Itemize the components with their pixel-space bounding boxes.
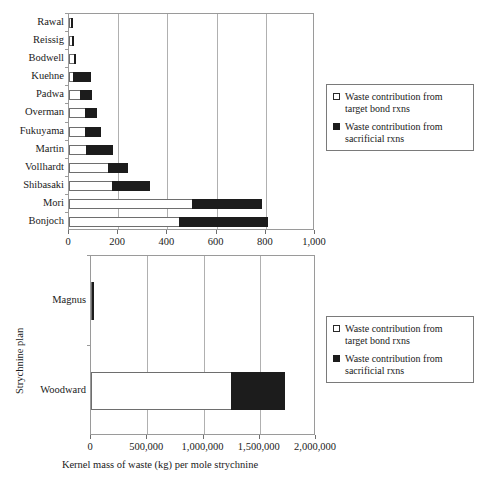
x-tick-label: 500,000 xyxy=(129,441,163,452)
x-tick-label: 1,000,000 xyxy=(182,441,224,452)
x-tick-label: 400 xyxy=(159,236,175,247)
legend-label-sacrificial-bottom: Waste contribution from sacrificial rxns xyxy=(345,353,443,376)
bar-segment-target-bond xyxy=(69,199,193,209)
x-tick-label: 1,500,000 xyxy=(238,441,280,452)
bar-bodwell xyxy=(69,54,76,64)
legend-item-sacrificial-bottom: Waste contribution from sacrificial rxns xyxy=(333,353,466,376)
bar-segment-target-bond xyxy=(69,163,109,173)
y-tick-mark xyxy=(65,31,68,32)
y-tick-label-reissig: Reissig xyxy=(0,34,64,45)
bar-segment-sacrificial xyxy=(192,199,262,209)
bar-segment-sacrificial xyxy=(85,108,97,118)
bar-segment-sacrificial xyxy=(112,181,150,191)
bar-magnus xyxy=(91,282,94,320)
gridline xyxy=(217,14,218,229)
bar-segment-sacrificial xyxy=(231,372,285,410)
bar-segment-target-bond xyxy=(69,145,87,155)
bar-martin xyxy=(69,145,113,155)
bar-segment-sacrificial xyxy=(72,36,74,46)
legend-label-sacrificial: Waste contribution from sacrificial rxns xyxy=(345,121,443,144)
y-tick-mark xyxy=(65,13,68,14)
bar-segment-target-bond xyxy=(69,181,113,191)
y-tick-label-bodwell: Bodwell xyxy=(0,52,64,63)
y-tick-mark xyxy=(65,85,68,86)
bar-kuehne xyxy=(69,72,91,82)
filled-square-swatch-icon xyxy=(333,123,340,130)
y-tick-mark xyxy=(65,49,68,50)
bar-bonjoch xyxy=(69,217,268,227)
x-tick-mark xyxy=(314,230,315,234)
y-tick-mark xyxy=(65,103,68,104)
y-tick-label-martin: Martin xyxy=(0,143,64,154)
x-tick-label: 1,000 xyxy=(302,236,326,247)
bar-segment-target-bond xyxy=(69,217,180,227)
y-tick-mark xyxy=(65,158,68,159)
bar-segment-sacrificial xyxy=(86,145,113,155)
bar-segment-target-bond xyxy=(69,108,86,118)
gridline xyxy=(167,14,168,229)
legend-item-target-bond: Waste contribution from target bond rxns xyxy=(333,91,466,114)
top-chart-panel: RawalReissigBodwellKuehnePadwaOvermanFuk… xyxy=(0,0,320,250)
x-tick-label: 0 xyxy=(87,441,92,452)
bar-segment-sacrificial xyxy=(74,54,76,64)
bar-overman xyxy=(69,108,97,118)
y-tick-mark xyxy=(65,212,68,213)
y-tick-mark xyxy=(65,122,68,123)
x-tick-label: 2,000,000 xyxy=(294,441,336,452)
y-tick-label-shibasaki: Shibasaki xyxy=(0,179,64,190)
x-tick-mark xyxy=(117,230,118,234)
open-square-swatch-icon xyxy=(333,325,340,332)
x-tick-mark xyxy=(315,435,316,439)
x-tick-label: 600 xyxy=(208,236,224,247)
bar-segment-sacrificial xyxy=(85,127,101,137)
filled-square-swatch-icon xyxy=(333,355,340,362)
top-chart-plot-area xyxy=(68,13,314,230)
bar-segment-sacrificial xyxy=(179,217,269,227)
legend-item-sacrificial: Waste contribution from sacrificial rxns xyxy=(333,121,466,144)
bar-vollhardt xyxy=(69,163,128,173)
y-tick-label-magnus: Magnus xyxy=(0,294,86,305)
bar-fukuyama xyxy=(69,127,101,137)
open-square-swatch-icon xyxy=(333,93,340,100)
x-tick-mark xyxy=(146,435,147,439)
y-tick-label-rawal: Rawal xyxy=(0,16,64,27)
y-tick-mark xyxy=(87,345,90,346)
x-tick-label: 200 xyxy=(109,236,125,247)
y-tick-label-vollhardt: Vollhardt xyxy=(0,161,64,172)
y-tick-mark xyxy=(65,140,68,141)
x-tick-mark xyxy=(216,230,217,234)
bar-padwa xyxy=(69,90,92,100)
y-tick-mark xyxy=(65,176,68,177)
x-tick-mark xyxy=(259,435,260,439)
bar-shibasaki xyxy=(69,181,150,191)
gridline xyxy=(118,14,119,229)
x-tick-mark xyxy=(203,435,204,439)
bar-rawal xyxy=(69,18,73,28)
bar-segment-sacrificial xyxy=(92,282,94,320)
bar-woodward xyxy=(91,372,285,410)
y-tick-label-woodward: Woodward xyxy=(0,384,86,395)
x-tick-mark xyxy=(265,230,266,234)
x-tick-label: 0 xyxy=(65,236,70,247)
bottom-chart-plot-area xyxy=(90,255,315,435)
x-tick-label: 800 xyxy=(257,236,273,247)
bottom-chart-legend: Waste contribution from target bond rxns… xyxy=(326,316,474,383)
bar-segment-target-bond xyxy=(69,127,86,137)
y-tick-mark xyxy=(65,67,68,68)
top-chart-legend: Waste contribution from target bond rxns… xyxy=(326,84,474,151)
y-tick-label-fukuyama: Fukuyama xyxy=(0,125,64,136)
strychnine-waste-figure: RawalReissigBodwellKuehnePadwaOvermanFuk… xyxy=(0,0,480,482)
x-tick-mark xyxy=(166,230,167,234)
legend-label-target-bond: Waste contribution from target bond rxns xyxy=(345,91,443,114)
y-tick-label-padwa: Padwa xyxy=(0,88,64,99)
y-tick-mark xyxy=(87,255,90,256)
legend-item-target-bond-bottom: Waste contribution from target bond rxns xyxy=(333,323,466,346)
y-tick-mark xyxy=(65,194,68,195)
bar-segment-sacrificial xyxy=(80,90,92,100)
bar-segment-target-bond xyxy=(91,372,232,410)
bottom-chart-x-axis-title: Kernel mass of waste (kg) per mole stryc… xyxy=(0,459,320,470)
x-tick-mark xyxy=(90,435,91,439)
gridline xyxy=(266,14,267,229)
bottom-chart-y-axis-title: Strychnine plan xyxy=(14,328,25,394)
bar-reissig xyxy=(69,36,74,46)
